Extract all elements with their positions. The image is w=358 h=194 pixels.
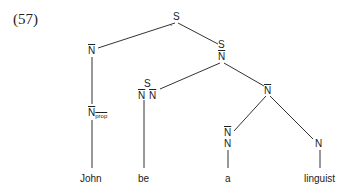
node-subject-nbar: N — [88, 46, 95, 56]
node-be-denominator-left: N — [138, 91, 145, 101]
word-linguist: linguist — [304, 173, 335, 184]
word-a: a — [225, 173, 231, 184]
node-be-denominator-right: N — [149, 91, 156, 101]
node-nprop: Nprop — [88, 108, 107, 121]
node-root-s: S — [173, 12, 180, 22]
node-predicate-denominator: N — [218, 52, 225, 62]
node-det-numerator: N — [224, 128, 231, 138]
word-be: be — [138, 173, 149, 184]
edge-predicate-object — [224, 63, 264, 86]
node-noun: N — [315, 139, 322, 149]
nprop-subscript: prop — [95, 113, 107, 119]
edge-root-predicate — [178, 23, 218, 44]
node-predicate-numerator: S — [218, 40, 225, 50]
edge-predicate-be — [160, 63, 220, 89]
edge-object-noun — [270, 96, 313, 139]
tree-edges — [0, 0, 358, 194]
node-det-denominator: N — [224, 139, 231, 149]
edge-object-det — [234, 96, 266, 131]
node-be-numerator: S — [144, 79, 151, 89]
word-john: John — [80, 173, 102, 184]
edge-root-subject — [98, 23, 175, 48]
syntax-tree-diagram: (57) S ˙ N S N S N N N Nprop N N N John … — [0, 0, 358, 194]
node-object-nbar: N — [264, 86, 271, 96]
example-number: (57) — [13, 11, 38, 28]
root-mark: ˙ — [170, 24, 173, 34]
